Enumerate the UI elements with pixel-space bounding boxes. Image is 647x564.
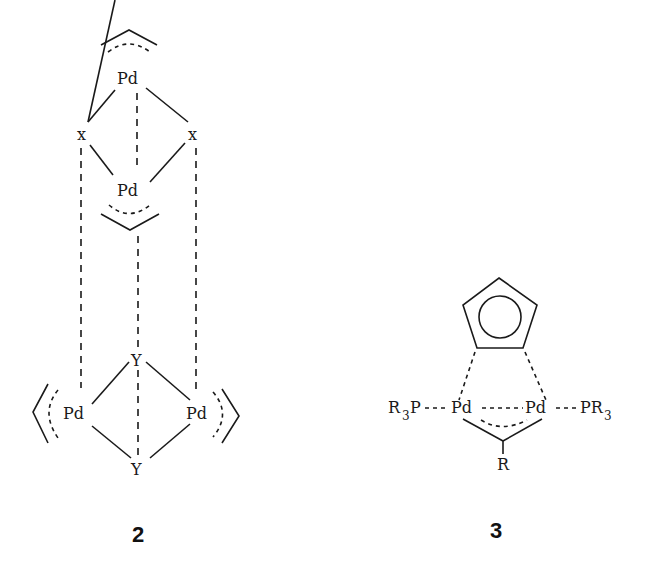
bond bbox=[88, 0, 115, 122]
atom-pd-right: Pd bbox=[186, 404, 207, 423]
atom-pd-mid: Pd bbox=[117, 181, 138, 200]
atom-pd-top: Pd bbox=[117, 69, 138, 88]
atom-r: R bbox=[497, 455, 510, 474]
aromatic-circle bbox=[479, 296, 521, 338]
atom-x-right: x bbox=[188, 125, 197, 144]
allyl-left-icon bbox=[33, 384, 48, 443]
allyl-mid-icon bbox=[101, 214, 159, 230]
atom-r3p-p: P bbox=[410, 398, 421, 417]
bond bbox=[92, 362, 129, 404]
atom-r3p-r: R bbox=[388, 398, 401, 417]
allyl-bridge-delocalized bbox=[481, 420, 527, 427]
atom-pr3-subscript: 3 bbox=[604, 409, 612, 423]
allyl-right-delocalized bbox=[213, 392, 223, 437]
bond bbox=[146, 362, 190, 400]
bond bbox=[463, 419, 503, 441]
allyl-mid-delocalized bbox=[109, 205, 150, 214]
allyl-top-delocalized bbox=[108, 44, 150, 52]
bond bbox=[150, 143, 185, 182]
atom-pd-right: Pd bbox=[525, 398, 546, 417]
atom-pd-left: Pd bbox=[63, 404, 84, 423]
bond bbox=[92, 426, 131, 458]
atom-y-top: Y bbox=[130, 351, 142, 370]
bond-cp-pd-left bbox=[459, 352, 475, 400]
chemical-structures-figure: Pd x x Pd Y Pd Pd Y 2 bbox=[0, 0, 647, 564]
atom-y-bottom: Y bbox=[130, 460, 142, 479]
allyl-top-icon bbox=[101, 30, 157, 45]
structure-3: R 3 P Pd Pd PR 3 R 3 bbox=[388, 278, 612, 543]
atom-x-left: x bbox=[77, 125, 86, 144]
atom-pr3: PR bbox=[580, 398, 604, 417]
compound-label-3: 3 bbox=[490, 518, 502, 543]
bond bbox=[150, 424, 190, 458]
bond bbox=[90, 145, 113, 175]
bond bbox=[146, 88, 188, 122]
atom-pd-left: Pd bbox=[451, 398, 472, 417]
allyl-left-delocalized bbox=[49, 390, 58, 438]
structure-2: Pd x x Pd Y Pd Pd Y 2 bbox=[33, 0, 239, 547]
bond-cp-pd-right bbox=[525, 352, 546, 400]
compound-label-2: 2 bbox=[132, 522, 144, 547]
atom-r3p-subscript: 3 bbox=[402, 409, 410, 423]
allyl-right-icon bbox=[222, 389, 239, 443]
